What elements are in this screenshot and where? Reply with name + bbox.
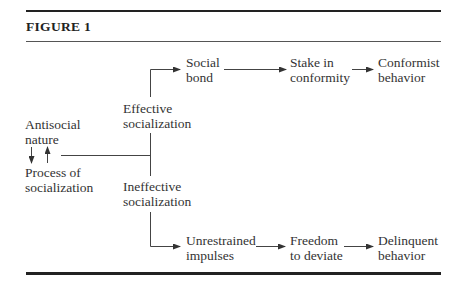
node-antisocial-nature: Antisocial nature — [25, 117, 81, 147]
node-unrestrained-impulses: Unrestrained impulses — [186, 233, 256, 263]
node-line: socialization — [123, 194, 191, 209]
node-line: Social — [186, 55, 220, 70]
node-line: Stake in — [290, 55, 350, 70]
node-line: Conformist — [378, 55, 440, 70]
node-line: conformity — [290, 70, 350, 85]
bottom-rule — [26, 272, 441, 275]
node-ineffective-socialization: Ineffective socialization — [123, 179, 191, 209]
node-line: bond — [186, 70, 220, 85]
node-line: Ineffective — [123, 179, 191, 194]
node-delinquent-behavior: Delinquent behavior — [378, 233, 438, 263]
node-line: socialization — [25, 180, 93, 195]
node-social-bond: Social bond — [186, 55, 220, 85]
node-line: behavior — [378, 70, 440, 85]
node-line: behavior — [378, 248, 438, 263]
node-line: to deviate — [290, 248, 343, 263]
node-line: Unrestrained — [186, 233, 256, 248]
node-freedom-to-deviate: Freedom to deviate — [290, 233, 343, 263]
node-stake-in-conformity: Stake in conformity — [290, 55, 350, 85]
node-line: Delinquent — [378, 233, 438, 248]
node-line: Process of — [25, 165, 93, 180]
node-conformist-behavior: Conformist behavior — [378, 55, 440, 85]
node-effective-socialization: Effective socialization — [123, 101, 191, 131]
node-line: Effective — [123, 101, 191, 116]
node-line: impulses — [186, 248, 256, 263]
node-line: nature — [25, 132, 81, 147]
node-line: socialization — [123, 116, 191, 131]
node-process-of-socialization: Process of socialization — [25, 165, 93, 195]
node-line: Freedom — [290, 233, 343, 248]
node-line: Antisocial — [25, 117, 81, 132]
